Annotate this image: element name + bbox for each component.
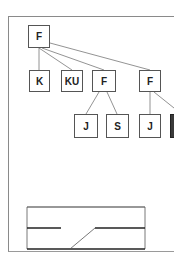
inset-schematic [27,207,145,249]
node-f-left: F [92,70,116,92]
node-root-f: F [28,25,50,48]
node-cut-off [170,114,174,138]
node-j-right: J [139,114,161,138]
node-ku: KU [61,70,83,92]
node-s: S [106,114,129,138]
node-j-left: J [74,114,98,138]
node-k: K [29,70,50,92]
node-f-right: F [139,70,161,92]
